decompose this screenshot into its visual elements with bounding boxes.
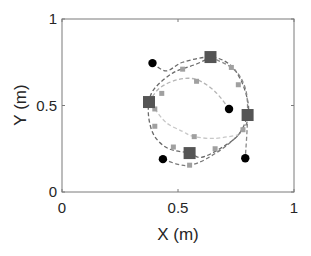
x-tick-label: 0.5 [168, 199, 189, 216]
x-tick-label: 0 [58, 199, 66, 216]
start-circle-marker [148, 59, 156, 67]
figure: 00.51 00.51 X (m) Y (m) [0, 0, 311, 256]
target-square-marker [184, 147, 196, 159]
target-square-marker [204, 51, 216, 63]
intermediate-point [236, 82, 241, 87]
intermediate-point [240, 127, 245, 132]
intermediate-point [192, 134, 197, 139]
y-axis-label: Y (m) [11, 84, 30, 125]
target-square-marker [242, 109, 254, 121]
start-circle-marker [225, 105, 233, 113]
start-circle-marker [159, 155, 167, 163]
intermediate-point [187, 163, 192, 168]
start-circle-marker [241, 154, 249, 162]
x-axis-label: X (m) [157, 225, 199, 244]
intermediate-point [171, 145, 176, 150]
y-tick-label: 0.5 [36, 97, 57, 114]
intermediate-point [180, 67, 185, 72]
intermediate-point [152, 124, 157, 129]
y-tick-label: 0 [49, 183, 57, 200]
target-square-marker [143, 96, 155, 108]
intermediate-point [213, 146, 218, 151]
intermediate-point [229, 65, 234, 70]
x-tick-label: 1 [290, 199, 298, 216]
intermediate-point [194, 79, 199, 84]
y-tick-label: 1 [49, 10, 57, 27]
intermediate-point [159, 91, 164, 96]
